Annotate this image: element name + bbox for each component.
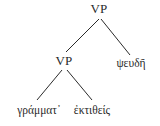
tree-node-vp-root: VP (90, 2, 107, 15)
tree-leaf-grammat: γράμματ᾽ (17, 105, 61, 117)
tree-edge-root-to-vp (66, 19, 99, 52)
tree-edge-root-to-pseude (101, 19, 130, 55)
tree-edge-vp-to-ektitheis (67, 70, 92, 100)
tree-leaf-pseude: ψευδῆ (116, 58, 145, 70)
syntax-tree-figure: VP VP ψευδῆ γράμματ᾽ ἐκτιθείς (0, 0, 160, 126)
tree-leaf-ektitheis: ἐκτιθείς (74, 105, 110, 117)
tree-node-vp-inner: VP (55, 54, 72, 67)
tree-edge-vp-to-grammat (37, 70, 62, 100)
